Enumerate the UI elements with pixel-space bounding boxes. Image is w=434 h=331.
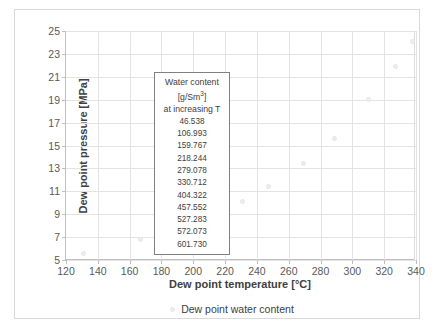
y-tick-label: 15 [36,141,60,151]
annotation-units-prefix: [g/Sm [178,92,201,102]
y-tick-mark [62,214,66,215]
y-tick-label: 11 [36,186,60,196]
gridline-horizontal [66,100,416,101]
y-tick-mark [62,237,66,238]
y-tick-mark [62,123,66,124]
y-tick-mark [62,168,66,169]
legend-marker-icon [170,307,175,312]
annotation-value: 159.767 [157,140,227,152]
chart-legend: Dew point water content [15,303,434,315]
gridline-vertical [416,31,417,260]
x-tick-mark [225,260,226,264]
annotation-line-2: [g/Sm3] [157,88,227,103]
plot-area: 5791113151719212325 12014016018020022024… [65,31,415,260]
x-tick-mark [416,260,417,264]
annotation-water-content-box: Water content [g/Sm3] at increasing T 46… [154,72,230,255]
gridline-horizontal [66,54,416,55]
gridline-horizontal [66,214,416,215]
annotation-line-3: at increasing T [157,103,227,115]
x-tick-mark [257,260,258,264]
annotation-units-suffix: ] [204,92,206,102]
data-point-marker [81,251,86,256]
x-tick-mark [98,260,99,264]
y-tick-mark [62,54,66,55]
y-tick-label: 23 [36,49,60,59]
legend-item-label: Dew point water content [181,303,294,315]
x-axis-title: Dew point temperature [°C] [65,278,415,290]
x-tick-mark [289,260,290,264]
gridline-vertical [352,31,353,260]
gridline-horizontal [66,168,416,169]
y-tick-label: 21 [36,72,60,82]
x-tick-mark [321,260,322,264]
x-tick-mark [384,260,385,264]
y-tick-label: 17 [36,118,60,128]
gridline-horizontal [66,31,416,32]
annotation-line-1: Water content [157,76,227,88]
annotation-value: 218.244 [157,153,227,165]
data-point-marker [393,64,398,69]
y-tick-mark [62,31,66,32]
gridline-vertical [130,31,131,260]
annotation-value: 601.730 [157,239,227,251]
gridline-horizontal [66,123,416,124]
y-tick-mark [62,191,66,192]
data-point-marker [138,237,143,242]
annotation-value: 457.552 [157,202,227,214]
annotation-value: 46.538 [157,116,227,128]
data-point-marker [332,136,337,141]
y-tick-label: 5 [36,255,60,265]
y-tick-label: 7 [36,232,60,242]
annotation-value: 279.078 [157,165,227,177]
x-tick-mark [66,260,67,264]
y-tick-label: 19 [36,95,60,105]
x-tick-mark [161,260,162,264]
y-tick-mark [62,100,66,101]
gridline-horizontal [66,237,416,238]
x-tick-label: 340 [396,265,434,277]
annotation-value: 330.712 [157,177,227,189]
y-tick-label: 9 [36,209,60,219]
chart-figure: Dew point pressure [MPa] 579111315171921… [0,0,434,331]
gridline-vertical [321,31,322,260]
gridline-horizontal [66,77,416,78]
y-tick-mark [62,77,66,78]
gridline-vertical [289,31,290,260]
x-tick-mark [352,260,353,264]
chart-frame: Dew point pressure [MPa] 579111315171921… [14,9,420,319]
annotation-value: 404.322 [157,190,227,202]
annotation-value: 527.283 [157,214,227,226]
x-tick-mark [193,260,194,264]
gridline-vertical [98,31,99,260]
data-point-marker [266,184,271,189]
gridline-vertical [257,31,258,260]
y-tick-label: 25 [36,26,60,36]
y-tick-mark [62,146,66,147]
gridline-horizontal [66,146,416,147]
gridline-vertical [384,31,385,260]
y-tick-label: 13 [36,163,60,173]
data-point-marker [301,161,306,166]
x-tick-mark [130,260,131,264]
data-point-marker [240,199,245,204]
data-point-marker [366,97,371,102]
gridline-horizontal [66,191,416,192]
gridline-horizontal [66,260,416,261]
annotation-value: 106.993 [157,128,227,140]
annotation-value-list: 46.538106.993159.767218.244279.078330.71… [157,116,227,251]
annotation-value: 572.073 [157,226,227,238]
